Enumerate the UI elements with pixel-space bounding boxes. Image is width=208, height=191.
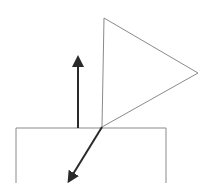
open-box-shape <box>16 128 166 183</box>
down-left-arrow-icon <box>69 127 102 181</box>
triangle-shape <box>102 18 198 127</box>
diagram-canvas <box>0 0 208 191</box>
